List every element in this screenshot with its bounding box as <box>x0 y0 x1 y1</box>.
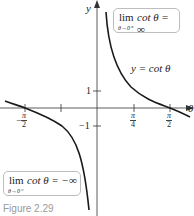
y-tick-label-one: 1 <box>86 85 91 96</box>
limit-right-subscript: θ→0⁺ <box>118 24 133 31</box>
y-axis-label: y <box>86 2 91 14</box>
limit-right-box: lim θ→0⁺ cot θ = ∞ <box>113 8 180 33</box>
limit-left-subscript: θ→0⁻ <box>8 187 23 194</box>
limit-left-lim: lim <box>9 174 24 186</box>
y-tick-label-neg-one: −1 <box>79 120 90 131</box>
x-tick-label-pi-quarter: π 4 <box>130 112 136 129</box>
figure-caption: Figure 2.29 <box>3 203 54 214</box>
limit-left-expression: cot θ = −∞ <box>27 174 77 186</box>
fraction-denominator: 4 <box>130 121 136 129</box>
limit-right-expression: cot θ = ∞ <box>137 11 179 35</box>
limit-left-box: lim θ→0⁻ cot θ = −∞ <box>3 171 81 196</box>
limit-right-lim: lim <box>119 11 134 23</box>
fraction-denominator: 2 <box>21 121 27 129</box>
x-axis-label: θ <box>188 102 193 114</box>
fraction-denominator: 2 <box>166 121 172 129</box>
x-tick-label-pi-half: π 2 <box>166 112 172 129</box>
y-axis-arrow-icon <box>94 0 100 8</box>
x-tick-label-neg-pi-half: π 2 <box>21 112 27 129</box>
curve-label: y = cot θ <box>131 62 170 74</box>
